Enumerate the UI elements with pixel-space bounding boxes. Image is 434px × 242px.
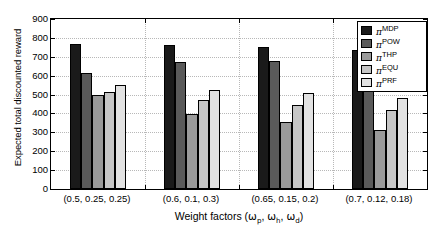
bar xyxy=(92,95,103,189)
bar xyxy=(81,73,92,189)
x-tick-label: (0.7, 0.12, 0.18) xyxy=(345,193,412,204)
y-tick-label: 200 xyxy=(22,145,48,156)
omega-p-symbol: ωp xyxy=(248,210,261,222)
x-axis-label-suffix: ) xyxy=(300,210,304,222)
legend-superscript: THP xyxy=(382,50,397,59)
x-axis-label-prefix: Weight factors ( xyxy=(175,210,248,222)
bar xyxy=(280,122,291,189)
bar xyxy=(175,62,186,189)
bar xyxy=(386,110,397,189)
bar xyxy=(303,93,314,189)
legend-swatch xyxy=(361,26,372,35)
legend-item: πPRF xyxy=(361,76,426,89)
legend: πMDPπPOWπTHPπEQUπPRF xyxy=(357,21,427,92)
x-tick-label: (0.65, 0.15, 0.2) xyxy=(251,193,318,204)
y-tick-label: 500 xyxy=(22,88,48,99)
legend-superscript: PRF xyxy=(382,76,397,85)
y-tick-label: 400 xyxy=(22,107,48,118)
bar xyxy=(186,114,197,189)
y-tick-label: 600 xyxy=(22,69,48,80)
y-tick-label: 700 xyxy=(22,50,48,61)
x-axis-label: Weight factors (ωp, ωh, ωd) xyxy=(50,210,428,225)
legend-swatch xyxy=(361,39,372,48)
bar-chart-figure: Expected total discounted reward 0100200… xyxy=(0,0,434,242)
x-tick-label: (0.5, 0.25, 0.25) xyxy=(63,193,130,204)
bar xyxy=(104,92,115,189)
bar-group xyxy=(239,19,333,189)
y-axis-tick-labels: 0100200300400500600700800900 xyxy=(22,18,48,190)
legend-swatch xyxy=(361,65,372,74)
legend-swatch xyxy=(361,78,372,87)
y-tick-label: 800 xyxy=(22,31,48,42)
legend-superscript: EQU xyxy=(382,63,398,72)
y-tick-label: 0 xyxy=(22,183,48,194)
legend-label: πEQU xyxy=(376,66,398,76)
bar xyxy=(374,130,385,189)
legend-item: πMDP xyxy=(361,24,426,37)
bar-group xyxy=(51,19,145,189)
omega-d-symbol: ωd xyxy=(286,210,299,222)
legend-item: πTHP xyxy=(361,50,426,63)
y-tick-label: 300 xyxy=(22,126,48,137)
legend-label: πPRF xyxy=(376,79,397,89)
y-tick-label: 900 xyxy=(22,13,48,24)
legend-label: πMDP xyxy=(376,27,399,37)
bar xyxy=(70,44,81,189)
legend-label: πPOW xyxy=(376,40,400,50)
bar xyxy=(269,61,280,189)
bar xyxy=(397,98,408,189)
bar xyxy=(258,47,269,189)
legend-item: πEQU xyxy=(361,63,426,76)
x-axis-tick-labels: (0.5, 0.25, 0.25)(0.6, 0.1, 0.3)(0.65, 0… xyxy=(50,193,428,207)
x-tick-label: (0.6, 0.1, 0.3) xyxy=(163,193,220,204)
legend-item: πPOW xyxy=(361,37,426,50)
y-axis-label: Expected total discounted reward xyxy=(12,3,23,193)
bar xyxy=(115,85,126,189)
legend-swatch xyxy=(361,52,372,61)
y-tick-label: 100 xyxy=(22,164,48,175)
omega-h-symbol: ωh xyxy=(267,210,280,222)
bar xyxy=(292,105,303,189)
legend-superscript: MDP xyxy=(382,24,399,33)
bar xyxy=(164,45,175,189)
bar-group xyxy=(145,19,239,189)
bar xyxy=(198,100,209,189)
bar xyxy=(209,90,220,189)
legend-superscript: POW xyxy=(382,37,400,46)
legend-label: πTHP xyxy=(376,53,397,63)
